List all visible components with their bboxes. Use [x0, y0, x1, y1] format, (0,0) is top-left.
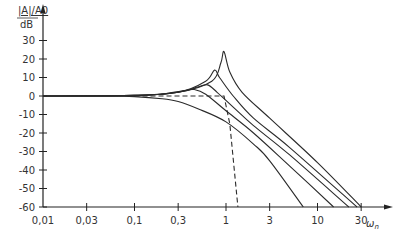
response-curve-5	[43, 51, 361, 207]
y-tick-label: 20	[22, 54, 35, 65]
curves	[43, 51, 361, 207]
x-axis-arrow-icon	[384, 205, 393, 210]
ideal-response-curve	[135, 96, 238, 207]
x-tick-label: 10	[311, 215, 324, 226]
x-tick-label: 3	[266, 215, 272, 226]
y-axis-label-bottom: dB	[20, 19, 33, 30]
x-tick-label: 0,3	[170, 215, 186, 226]
y-tick-label: 30	[22, 35, 35, 46]
y-tick-label: -20	[19, 128, 35, 139]
y-tick-label: -40	[19, 165, 35, 176]
y-tick-label: -10	[19, 109, 35, 120]
bode-magnitude-chart: |A|/A0 dB 3020100-10-20-30-40-50-60 0,01…	[0, 0, 401, 237]
x-tick-label: 1	[223, 215, 229, 226]
y-tick-label: -30	[19, 146, 35, 157]
y-tick-label: -50	[19, 183, 35, 194]
y-tick-label: 0	[29, 91, 35, 102]
x-axis-label: ωn	[366, 218, 379, 231]
x-tick-label: 0,03	[76, 215, 98, 226]
response-curve-3	[43, 85, 349, 207]
x-tick-label: 0,1	[127, 215, 143, 226]
y-tick-label: 10	[22, 72, 35, 83]
y-tick-label: -60	[19, 202, 35, 213]
x-tick-label: 0,01	[32, 215, 54, 226]
